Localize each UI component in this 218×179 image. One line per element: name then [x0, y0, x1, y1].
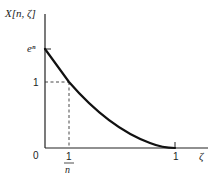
diagram-canvas: X[n, ζ] eⁿ 1 0 1 n 1 ζ: [0, 0, 218, 179]
origin-label: 0: [33, 150, 39, 161]
y-tick-label-1: 1: [33, 77, 39, 88]
y-axis-label: X[n, ζ]: [4, 7, 36, 20]
y-tick-label-en: eⁿ: [27, 42, 36, 54]
function-curve: [45, 49, 175, 148]
x-tick-label-1: 1: [173, 151, 179, 162]
x-axis-label: ζ: [199, 150, 205, 163]
x-tick-label-1-over-n-num: 1: [66, 151, 72, 162]
x-tick-label-1-over-n-den: n: [65, 164, 70, 175]
